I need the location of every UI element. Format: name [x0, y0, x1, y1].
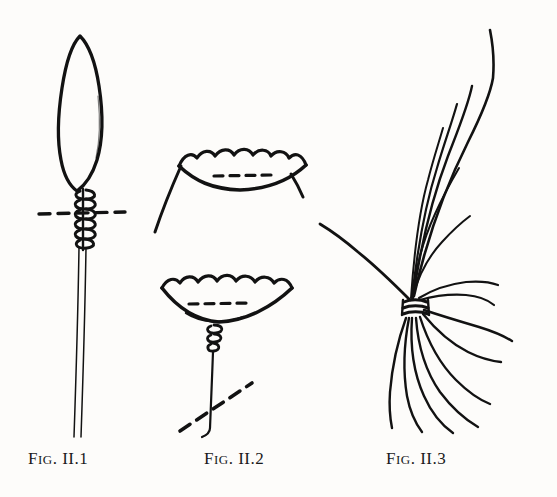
caption-3-rest: . II.3	[411, 449, 447, 468]
lower-cup-scalloped-rim	[162, 275, 292, 288]
downswept-strand-7	[424, 310, 512, 341]
figure-2-drawing	[155, 149, 306, 437]
lower-cup-stem	[202, 352, 213, 437]
downswept-strand-5	[420, 317, 490, 404]
lashing-band	[402, 300, 429, 315]
caption-figure-2: FIG. II.2	[204, 450, 264, 467]
knot-loop-1	[208, 325, 222, 333]
plate-artwork	[0, 0, 557, 497]
left-lateral-strand	[320, 224, 410, 300]
band-turn-2	[403, 306, 428, 308]
caption-2-smallcaps: IG	[214, 452, 229, 467]
caption-2-rest: . II.2	[229, 449, 265, 468]
dashed-section-line-diagonal	[180, 383, 252, 431]
figure-plate: FIG. II.1 FIG. II.2 FIG. II.3	[0, 0, 557, 497]
knot-loop-3	[208, 343, 219, 351]
upper-cup-scalloped-rim	[179, 149, 306, 166]
upper-cup-left-stalk	[155, 166, 181, 232]
upper-cup-right-flare	[291, 174, 303, 197]
band-turn-1	[404, 300, 427, 302]
upper-cup-dashed-chord	[214, 175, 272, 176]
right-flare-strand-2	[420, 295, 494, 305]
shaft-left-edge	[74, 248, 79, 437]
caption-3-lead: F	[386, 449, 396, 468]
lower-cup-dashed-chord	[189, 303, 250, 304]
caption-figure-3: FIG. II.3	[386, 450, 446, 467]
downswept-strand-2	[405, 318, 422, 432]
figure-1-drawing	[39, 36, 125, 437]
lower-cup-bowl	[162, 288, 292, 322]
caption-1-smallcaps: IG	[38, 452, 53, 467]
band-left-edge	[402, 300, 403, 315]
caption-figure-1: FIG. II.1	[28, 450, 88, 467]
dashed-section-line-horizontal	[39, 212, 125, 214]
coil-loop-6	[76, 239, 93, 248]
caption-1-rest: . II.1	[53, 449, 89, 468]
blade-outline	[58, 36, 101, 191]
upswept-strand-1	[414, 30, 494, 296]
upper-cup-bowl	[179, 165, 306, 190]
lower-cup-coil-knot	[208, 325, 222, 351]
caption-1-lead: F	[28, 449, 38, 468]
figure-3-drawing	[320, 30, 512, 433]
knot-loop-2	[208, 334, 221, 342]
shaft-right-edge	[81, 248, 86, 437]
coil-lashing	[75, 189, 95, 250]
caption-3-smallcaps: IG	[396, 452, 411, 467]
caption-2-lead: F	[204, 449, 214, 468]
